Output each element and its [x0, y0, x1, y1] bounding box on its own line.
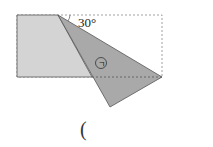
- angle-arc: [68, 15, 70, 21]
- marker-label: ㄱ: [98, 60, 105, 69]
- angle-label: 30°: [78, 15, 96, 30]
- folded-paper-diagram: 30° ㄱ: [0, 0, 213, 147]
- answer-blank: (: [80, 118, 87, 141]
